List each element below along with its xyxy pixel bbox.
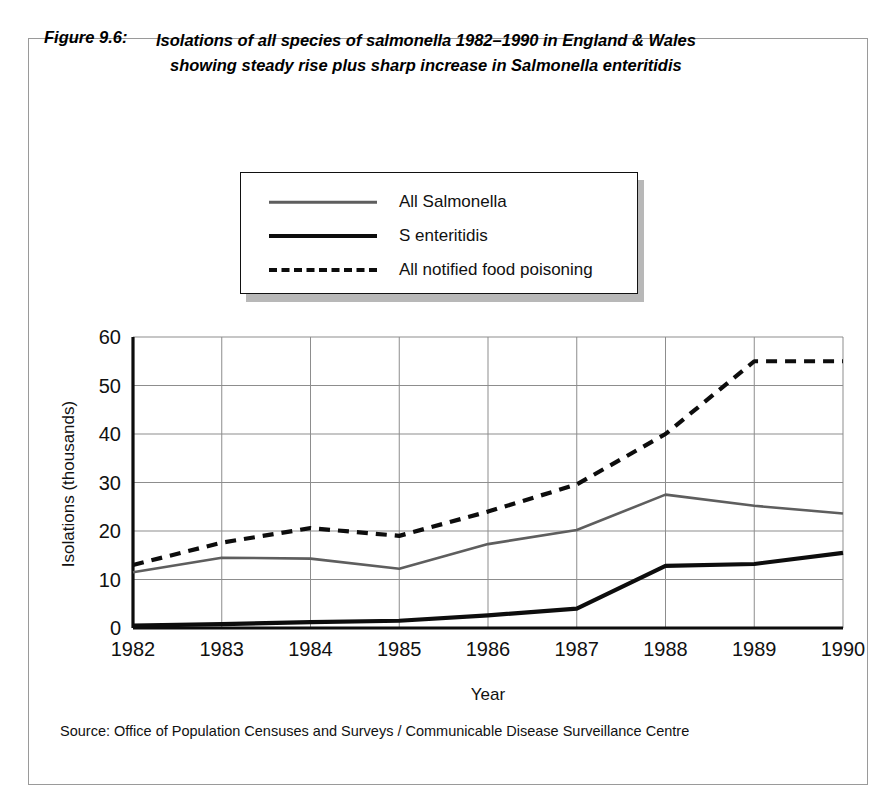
x-tick-label: 1988: [643, 638, 688, 660]
x-tick-label: 1986: [466, 638, 511, 660]
x-tick-labels: 198219831984198519861987198819891990: [111, 638, 866, 660]
source-note: Source: Office of Population Censuses an…: [60, 723, 689, 739]
chart-plot-area: 0102030405060 19821983198419851986198719…: [0, 0, 895, 806]
x-tick-label: 1987: [555, 638, 600, 660]
line-chart: 0102030405060 19821983198419851986198719…: [0, 0, 895, 806]
x-axis-label: Year: [471, 685, 506, 704]
y-tick-label: 30: [99, 472, 121, 494]
x-tick-label: 1982: [111, 638, 156, 660]
y-tick-labels: 0102030405060: [99, 326, 121, 639]
y-tick-label: 20: [99, 520, 121, 542]
y-tick-label: 60: [99, 326, 121, 348]
y-tick-label: 10: [99, 569, 121, 591]
y-axis-label: Isolations (thousands): [59, 401, 78, 567]
y-tick-label: 0: [110, 617, 121, 639]
x-tick-label: 1990: [821, 638, 866, 660]
x-tick-label: 1983: [200, 638, 245, 660]
y-tick-label: 40: [99, 423, 121, 445]
x-tick-label: 1985: [377, 638, 422, 660]
y-tick-label: 50: [99, 375, 121, 397]
x-tick-label: 1989: [732, 638, 777, 660]
grid-lines: [133, 337, 843, 628]
x-tick-label: 1984: [288, 638, 333, 660]
